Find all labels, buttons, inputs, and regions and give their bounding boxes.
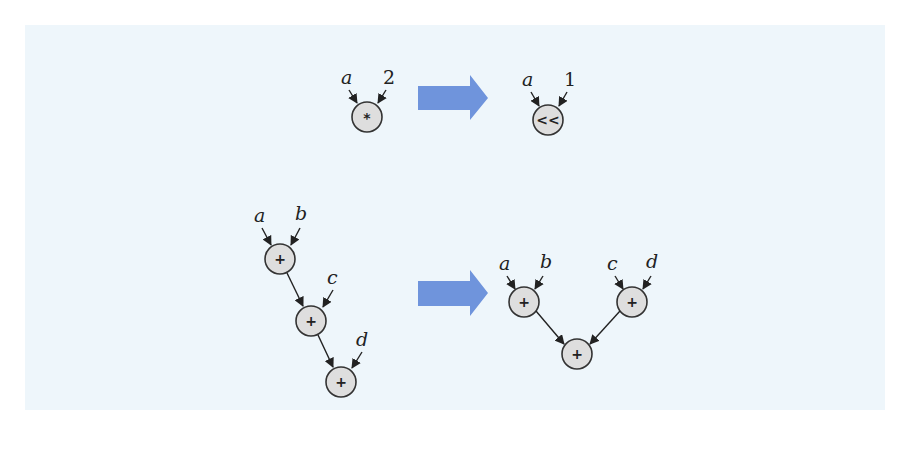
edge-c-add2 [323, 290, 333, 307]
row2-after: a b + c d + + [499, 250, 658, 369]
edge-c-addR [615, 276, 623, 289]
edge-b-addL [535, 276, 543, 289]
add-operator: + [335, 374, 347, 390]
edge-addR-addRoot [590, 311, 620, 344]
input-label-a: a [522, 68, 533, 90]
input-label-d: d [646, 250, 658, 272]
edge-b-add1 [291, 228, 300, 245]
transform-arrow-icon [418, 75, 488, 120]
edge-2-mul [378, 90, 386, 103]
dataflow-diagram: a 2 * a 1 << a b + c + d + [0, 0, 910, 453]
input-label-a: a [499, 252, 510, 274]
add-operator: + [305, 313, 317, 329]
input-label-b: b [540, 250, 552, 272]
edge-add2-add3 [318, 335, 333, 367]
input-label-d: d [356, 328, 368, 350]
add-operator: + [571, 346, 583, 362]
input-label-b: b [295, 202, 307, 224]
add-operator: + [626, 294, 638, 310]
edge-d-add3 [352, 352, 362, 368]
edge-d-addR [643, 276, 651, 289]
shift-operator: << [536, 112, 559, 128]
row2-before: a b + c + d + [254, 202, 368, 397]
row1-after: a 1 << [522, 68, 576, 135]
input-label-c: c [607, 252, 618, 274]
add-operator: + [518, 294, 530, 310]
edge-addL-addRoot [536, 311, 564, 344]
transform-arrow-icon [418, 270, 488, 316]
edge-1-shift [559, 92, 567, 106]
edge-a-addL [507, 276, 515, 289]
edge-a-add1 [262, 228, 271, 245]
add-operator: + [274, 251, 286, 267]
edge-a-mul [349, 90, 357, 103]
input-label-2: 2 [383, 66, 395, 88]
input-label-c: c [327, 266, 338, 288]
input-label-1: 1 [564, 68, 576, 90]
input-label-a: a [341, 66, 352, 88]
row1-before: a 2 * [341, 66, 395, 132]
edge-a-shift [531, 92, 539, 106]
edge-add1-add2 [287, 273, 303, 306]
multiply-operator: * [363, 110, 371, 126]
input-label-a: a [254, 204, 265, 226]
